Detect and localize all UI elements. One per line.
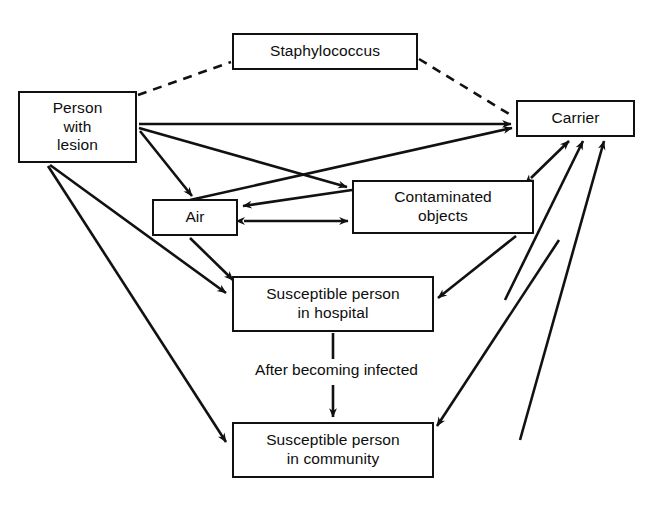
node-susceptible-person-in-community[interactable]: Susceptible person in community bbox=[232, 422, 434, 478]
edge-person-lesion-contaminated bbox=[139, 128, 347, 187]
node-staphylococcus[interactable]: Staphylococcus bbox=[232, 33, 418, 70]
node-person-with-lesion[interactable]: Person with lesion bbox=[18, 91, 137, 163]
node-staphylococcus-label: Staphylococcus bbox=[266, 42, 384, 61]
edge-staphylococcus-carrier bbox=[419, 59, 514, 117]
edge-contaminated-hospital bbox=[438, 236, 516, 298]
transmission-diagram: Staphylococcus Person with lesion Carrie… bbox=[0, 0, 654, 508]
node-carrier-label: Carrier bbox=[547, 109, 603, 128]
node-contaminated-objects[interactable]: Contaminated objects bbox=[352, 180, 534, 234]
node-person-with-lesion-label: Person with lesion bbox=[49, 99, 107, 156]
node-air-label: Air bbox=[181, 208, 208, 227]
node-carrier[interactable]: Carrier bbox=[516, 100, 635, 137]
node-air[interactable]: Air bbox=[152, 199, 238, 236]
node-susceptible-person-in-hospital[interactable]: Susceptible person in hospital bbox=[232, 276, 434, 332]
node-susceptible-person-in-hospital-label: Susceptible person in hospital bbox=[262, 285, 404, 323]
edge-contaminated-air bbox=[243, 190, 352, 206]
edge-air-hospital bbox=[190, 238, 233, 280]
edge-carrier-contaminated-bidirectional bbox=[531, 141, 569, 178]
edge-label-after-becoming-infected: After becoming infected bbox=[216, 361, 457, 380]
edge-carrier-community bbox=[437, 240, 559, 426]
node-contaminated-objects-label: Contaminated objects bbox=[390, 188, 496, 226]
edge-person-lesion-staphylococcus bbox=[138, 62, 231, 95]
node-susceptible-person-in-community-label: Susceptible person in community bbox=[262, 431, 404, 469]
